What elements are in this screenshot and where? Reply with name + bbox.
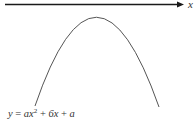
equation-plus-1: +	[37, 108, 48, 119]
x-axis-label: x	[188, 0, 193, 10]
equation-term2: 6x	[48, 108, 58, 119]
x-axis-arrowhead-icon	[177, 2, 184, 8]
equation-plus-2: +	[58, 108, 69, 119]
equation-equals: =	[13, 108, 24, 119]
equation-term1: ax	[24, 108, 34, 119]
parabola-equation: y = ax2 + 6x + a	[8, 108, 75, 119]
equation-term3: a	[70, 108, 75, 119]
parabola-curve	[35, 17, 159, 107]
